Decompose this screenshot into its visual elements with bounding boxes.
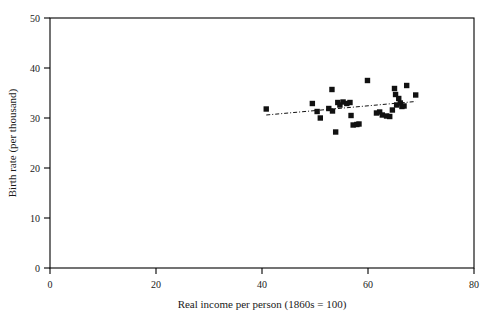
scatter-chart-figure: 0 10 20 30 40 50 0 20 40 60 80 Real inco… — [0, 0, 494, 325]
y-tick-label-50: 50 — [30, 13, 40, 24]
x-axis-title: Real income per person (1860s = 100) — [178, 298, 347, 311]
chart-background — [0, 0, 494, 325]
data-point-marker — [365, 78, 370, 83]
data-point-marker — [329, 87, 334, 92]
data-point-marker — [348, 113, 353, 118]
data-point-marker — [404, 83, 409, 88]
data-point-marker — [347, 100, 352, 105]
x-tick-label-80: 80 — [469, 279, 479, 290]
x-tick-label-20: 20 — [151, 279, 161, 290]
data-point-marker — [387, 114, 392, 119]
data-point-marker — [310, 101, 315, 106]
y-axis-title: Birth rate (per thousand) — [6, 88, 19, 197]
y-tick-label-20: 20 — [30, 163, 40, 174]
data-point-marker — [314, 109, 319, 114]
x-tick-label-0: 0 — [48, 279, 53, 290]
data-point-marker — [318, 115, 323, 120]
data-point-marker — [392, 86, 397, 91]
x-tick-label-40: 40 — [257, 279, 267, 290]
y-tick-label-40: 40 — [30, 63, 40, 74]
x-tick-label-60: 60 — [363, 279, 373, 290]
chart-canvas: 0 10 20 30 40 50 0 20 40 60 80 Real inco… — [0, 0, 494, 325]
data-point-marker — [333, 129, 338, 134]
y-tick-label-0: 0 — [35, 263, 40, 274]
y-tick-label-10: 10 — [30, 213, 40, 224]
data-point-marker — [401, 103, 406, 108]
data-point-marker — [356, 121, 361, 126]
data-point-marker — [390, 107, 395, 112]
data-point-marker — [330, 108, 335, 113]
data-point-marker — [264, 106, 269, 111]
data-point-marker — [413, 92, 418, 97]
y-tick-label-30: 30 — [30, 113, 40, 124]
